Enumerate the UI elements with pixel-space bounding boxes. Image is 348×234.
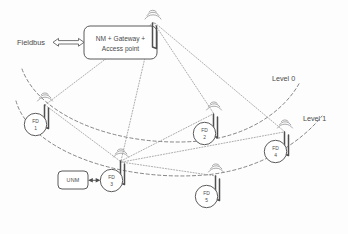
link-ap-fd2 bbox=[154, 23, 214, 114]
diagram-canvas: NM + Gateway + Access point Fieldbus bbox=[0, 0, 348, 234]
wireless-links bbox=[45, 23, 285, 176]
unm-label: UNM bbox=[67, 177, 80, 183]
node-fd3[interactable]: FD 3 bbox=[100, 149, 128, 192]
level-0-arc bbox=[22, 69, 300, 142]
level-0-arc-group bbox=[22, 69, 300, 142]
fd1-circle[interactable] bbox=[24, 113, 46, 135]
fieldbus-label: Fieldbus bbox=[17, 38, 45, 47]
unm-node[interactable]: UNM bbox=[58, 171, 88, 189]
access-point-wave-icon bbox=[145, 10, 161, 19]
unm-arrow-head-left bbox=[88, 178, 93, 182]
fd2-wave-icon bbox=[207, 102, 222, 110]
fd5-circle[interactable] bbox=[195, 185, 217, 207]
level-1-arc-group bbox=[16, 101, 322, 176]
level-0-label: Level 0 bbox=[272, 74, 295, 83]
level-1-label: Level 1 bbox=[303, 114, 326, 123]
fd3-circle[interactable] bbox=[100, 169, 122, 191]
level-1-label-group: Level 1 bbox=[303, 114, 326, 123]
network-topology-diagram: NM + Gateway + Access point Fieldbus bbox=[0, 0, 348, 234]
gateway-label-line1: NM + Gateway + bbox=[96, 35, 146, 43]
gateway-node[interactable]: NM + Gateway + Access point bbox=[84, 26, 157, 59]
fd1-number: 1 bbox=[34, 126, 37, 131]
fd2-number: 2 bbox=[203, 135, 206, 140]
fd4-prefix: FD bbox=[272, 146, 279, 151]
fd2-prefix: FD bbox=[201, 128, 208, 133]
fd1-prefix: FD bbox=[32, 119, 39, 124]
fieldbus-double-arrow-icon bbox=[53, 38, 84, 46]
fd2-circle[interactable] bbox=[193, 122, 215, 144]
fd4-number: 4 bbox=[274, 153, 277, 158]
fd3-prefix: FD bbox=[108, 175, 115, 180]
gateway-label-line2: Access point bbox=[102, 45, 140, 53]
fd5-number: 5 bbox=[205, 198, 208, 203]
fd4-circle[interactable] bbox=[264, 140, 286, 162]
fd3-number: 3 bbox=[110, 182, 113, 187]
fd5-wave-icon bbox=[209, 164, 224, 172]
unm-fd3-connection bbox=[88, 178, 101, 182]
fd3-wave-icon bbox=[114, 149, 129, 157]
fieldbus-connection: Fieldbus bbox=[17, 38, 84, 47]
level-1-arc bbox=[16, 101, 322, 176]
unm-arrow-head-right bbox=[96, 178, 101, 182]
link-fd3-fd5 bbox=[121, 162, 216, 176]
fd5-prefix: FD bbox=[203, 191, 210, 196]
node-fd1[interactable]: FD 1 bbox=[24, 93, 52, 136]
fd1-wave-icon bbox=[38, 93, 53, 101]
fd4-wave-icon bbox=[278, 120, 293, 128]
level-0-label-group: Level 0 bbox=[272, 74, 295, 83]
node-fd5[interactable]: FD 5 bbox=[195, 164, 223, 208]
gateway-box[interactable] bbox=[84, 26, 157, 59]
link-ap-fd4 bbox=[155, 23, 285, 132]
